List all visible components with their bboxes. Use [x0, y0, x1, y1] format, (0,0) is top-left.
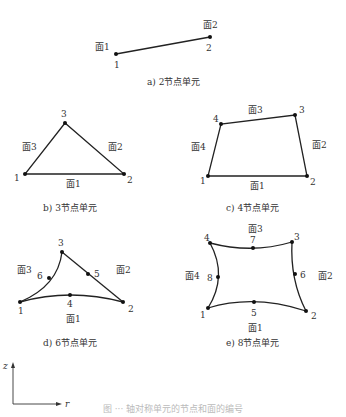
element-caption: b) 3节点单元: [43, 202, 97, 213]
node-number: 5: [94, 269, 100, 279]
node-dot: [23, 172, 27, 176]
node-number: 3: [61, 109, 67, 119]
node-number: 3: [294, 232, 300, 242]
element-caption: d) 6节点单元: [43, 337, 97, 348]
node-dot: [63, 121, 67, 125]
element-c: 1234面1面2面3面4c) 4节点单元: [191, 105, 327, 213]
z-arrow-icon: [11, 362, 15, 368]
node-dot: [216, 275, 220, 279]
node-dot: [18, 300, 22, 304]
element-caption: c) 4节点单元: [226, 202, 279, 213]
face-label: 面3: [22, 142, 37, 152]
face-label: 面2: [318, 271, 333, 281]
node-dot: [206, 174, 210, 178]
node-dot: [208, 35, 212, 39]
node-number: 1: [200, 310, 206, 320]
node-dot: [122, 172, 126, 176]
element-e: 12345678面1面2面3面4e) 8节点单元: [185, 224, 333, 348]
figure-caption: 图 ··· 轴对称单元的节点和面的编号: [103, 403, 243, 414]
node-dot: [68, 293, 72, 297]
axisymmetric-elements-diagram: 12面1面2a) 2节点单元123面1面2面3b) 3节点单元1234面1面2面…: [0, 0, 346, 417]
node-number: 3: [58, 238, 64, 248]
face-label: 面2: [116, 265, 131, 275]
node-number: 2: [128, 304, 134, 314]
node-dot: [251, 246, 255, 250]
node-dot: [304, 309, 308, 313]
face-label: 面3: [17, 265, 32, 275]
element-b: 123面1面2面3b) 3节点单元: [14, 109, 133, 213]
face-label: 面1: [250, 181, 265, 191]
node-number: 2: [206, 43, 212, 53]
node-number: 1: [14, 173, 20, 183]
element-edge: [208, 302, 306, 311]
coordinate-axes: z r: [2, 361, 70, 409]
node-number: 6: [37, 271, 43, 281]
elements-layer: 12面1面2a) 2节点单元123面1面2面3b) 3节点单元1234面1面2面…: [14, 20, 333, 348]
node-number: 4: [204, 233, 210, 243]
node-dot: [86, 272, 90, 276]
node-number: 1: [200, 176, 206, 186]
node-dot: [219, 122, 223, 126]
node-number: 7: [250, 235, 256, 245]
node-dot: [293, 113, 297, 117]
node-dot: [47, 276, 51, 280]
node-number: 8: [207, 273, 213, 283]
r-axis-label: r: [65, 399, 70, 409]
node-dot: [60, 250, 64, 254]
node-number: 3: [299, 105, 305, 115]
face-label: 面4: [185, 271, 200, 281]
face-label: 面2: [108, 142, 123, 152]
face-label: 面1: [95, 42, 110, 52]
node-dot: [114, 52, 118, 56]
node-number: 2: [310, 177, 316, 187]
face-label: 面4: [191, 142, 206, 152]
node-number: 1: [18, 306, 24, 316]
node-number: 4: [213, 114, 219, 124]
node-number: 2: [127, 175, 133, 185]
node-number: 5: [251, 308, 257, 318]
face-label: 面2: [312, 140, 327, 150]
node-dot: [121, 300, 125, 304]
element-edge: [116, 37, 210, 54]
element-caption: a) 2节点单元: [147, 76, 200, 87]
node-dot: [305, 174, 309, 178]
node-number: 4: [67, 299, 73, 309]
node-number: 2: [311, 311, 317, 321]
face-label: 面1: [248, 323, 263, 333]
face-label: 面3: [248, 105, 263, 115]
node-number: 1: [114, 60, 120, 70]
face-label: 面1: [66, 179, 81, 189]
element-d: 123456面1面2面3d) 6节点单元: [17, 238, 134, 348]
r-arrow-icon: [56, 402, 62, 406]
face-label: 面2: [203, 20, 218, 30]
element-caption: e) 8节点单元: [226, 337, 279, 348]
face-label: 面3: [248, 224, 263, 234]
node-dot: [252, 300, 256, 304]
node-number: 6: [300, 270, 306, 280]
element-a: 12面1面2a) 2节点单元: [95, 20, 218, 87]
face-label: 面1: [66, 314, 81, 324]
z-axis-label: z: [2, 361, 8, 371]
node-dot: [206, 306, 210, 310]
node-dot: [293, 272, 297, 276]
